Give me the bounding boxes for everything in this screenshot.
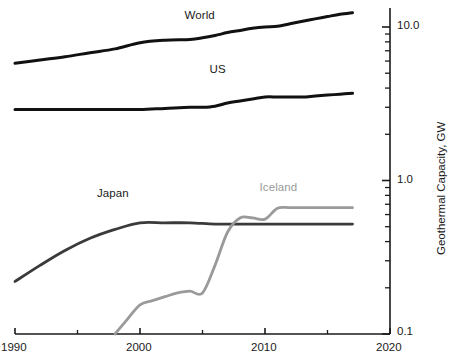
y-axis-tick-label-1: 1.0 — [397, 173, 413, 185]
series-label-iceland: Iceland — [260, 181, 298, 193]
y-axis-title: Geothermal Capacity, GW — [435, 122, 447, 255]
series-label-japan: Japan — [97, 187, 129, 199]
series-label-us: US — [210, 63, 226, 75]
series-line-iceland — [115, 207, 353, 334]
x-axis-tick-label-1990: 1990 — [1, 341, 27, 353]
x-axis-tick-label-2010: 2010 — [251, 341, 277, 353]
series-line-us — [15, 93, 353, 109]
series-lines — [15, 13, 353, 334]
series-line-japan — [15, 222, 353, 281]
geothermal-capacity-chart: World US Japan Iceland 10.0 1.0 0.1 1990… — [0, 0, 450, 358]
chart-plot-area — [0, 0, 450, 358]
y-axis-tick-label-10: 10.0 — [397, 19, 419, 31]
x-axis-tick-label-2020: 2020 — [376, 341, 402, 353]
series-label-world: World — [185, 9, 215, 21]
y-axis-tick-label-0point1: 0.1 — [397, 325, 413, 337]
x-axis-tick-label-2000: 2000 — [126, 341, 152, 353]
axis-tick-marks — [15, 27, 390, 334]
